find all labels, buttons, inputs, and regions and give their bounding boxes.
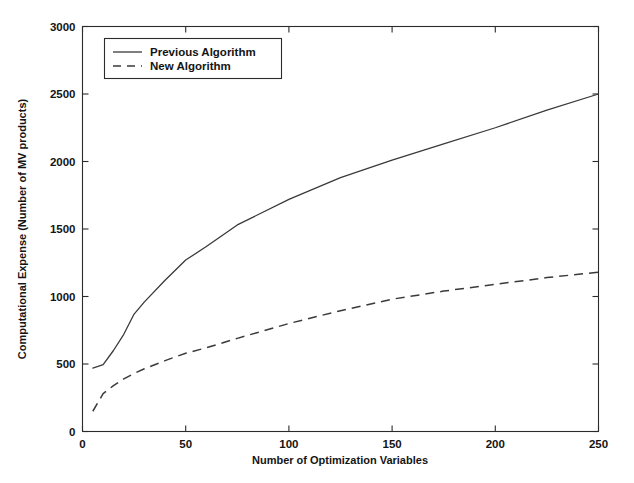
series-previous-algorithm [93,94,599,368]
plot-area-frame [83,27,599,432]
x-axis-label: Number of Optimization Variables [252,454,428,466]
legend-label-new-algorithm: New Algorithm [150,60,231,72]
x-axis-ticks [83,27,599,432]
chart-legend: Previous Algorithm New Algorithm [105,39,282,79]
y-tick-label: 2500 [50,88,76,100]
x-tick-label: 250 [589,438,608,450]
y-axis-label: Computational Expense (Number of MV prod… [16,98,28,359]
y-tick-label: 2000 [50,156,76,168]
legend-label-previous-algorithm: Previous Algorithm [150,46,256,58]
y-tick-label: 0 [69,426,75,438]
x-tick-label: 150 [383,438,402,450]
series-new-algorithm [93,272,599,411]
y-tick-label: 1000 [50,291,76,303]
x-tick-label: 50 [179,438,192,450]
x-tick-label: 0 [79,438,85,450]
x-tick-label: 100 [279,438,298,450]
x-tick-label: 200 [486,438,505,450]
x-axis-tick-labels: 050100150200250 [79,438,608,450]
legend-box [105,39,282,79]
y-tick-label: 500 [56,358,75,370]
y-axis-ticks [83,27,599,432]
line-chart: 050010001500200025003000 050100150200250… [0,0,634,483]
y-tick-label: 3000 [50,21,76,33]
y-tick-label: 1500 [50,223,76,235]
y-axis-tick-labels: 050010001500200025003000 [50,21,76,438]
chart-figure: 050010001500200025003000 050100150200250… [0,0,634,483]
